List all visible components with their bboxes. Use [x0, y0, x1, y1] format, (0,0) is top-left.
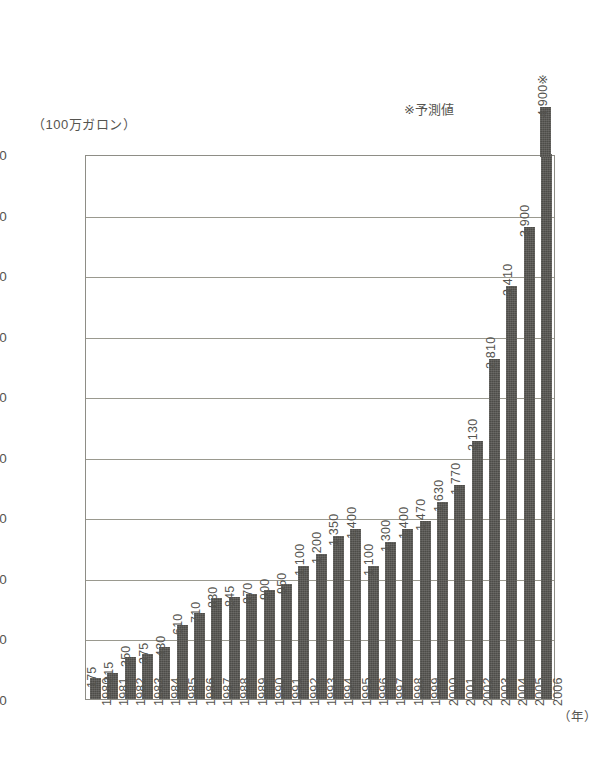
gridline: [86, 217, 554, 218]
x-axis-tick-label: 1988: [238, 677, 252, 706]
gridline: [86, 277, 554, 278]
y-axis-tick-label: 1,000: [0, 571, 7, 586]
x-axis-tick-label: 1986: [204, 677, 218, 706]
x-axis-tick-label: 1998: [412, 677, 426, 706]
x-axis-tick-label: 2000: [447, 677, 461, 706]
bar-value-label: 1,350: [327, 513, 341, 545]
bar-value-label: 3,410: [501, 264, 515, 296]
x-axis-tick-label: 1991: [290, 677, 304, 706]
y-axis-tick-label: 1,500: [0, 511, 7, 526]
bar-value-label: 1,470: [414, 499, 428, 531]
x-axis-tick-label: 2006: [551, 677, 565, 706]
bar: [420, 521, 431, 699]
bar-value-label: 610: [171, 614, 185, 635]
bar-value-label: 950: [275, 572, 289, 593]
bar: [437, 502, 448, 699]
bar: [489, 359, 500, 699]
bar: [333, 536, 344, 700]
y-axis-tick-label: 500: [0, 632, 7, 647]
bar-value-label: 900: [258, 579, 272, 600]
bar-value-label: 710: [189, 602, 203, 623]
x-axis-tick-label: 1981: [117, 677, 131, 706]
y-axis-tick-label: 2,500: [0, 390, 7, 405]
bar: [524, 227, 535, 699]
x-axis-tick-label: 1989: [256, 677, 270, 706]
x-axis-tick-label: 1993: [325, 677, 339, 706]
x-axis-tick-label: 1995: [360, 677, 374, 706]
bar-value-label: 1,100: [293, 543, 307, 575]
x-axis-tick-label: 2003: [499, 677, 513, 706]
bar-value-label: 430: [154, 635, 168, 656]
x-axis-tick-label: 1985: [186, 677, 200, 706]
plot-area: [85, 155, 555, 700]
bar-value-label: 1,630: [432, 479, 446, 511]
bar-value-label: 870: [241, 582, 255, 603]
x-axis-tick-label: 1999: [429, 677, 443, 706]
bar-value-label: 1,200: [310, 531, 324, 563]
bar: [472, 441, 483, 699]
bar: [454, 485, 465, 699]
x-axis-unit-label: （年）: [558, 706, 597, 725]
gridline: [86, 459, 554, 460]
bar: [385, 542, 396, 699]
gridline: [86, 519, 554, 520]
x-axis-tick-label: 1990: [273, 677, 287, 706]
x-axis-tick-label: 1996: [377, 677, 391, 706]
bar: [541, 154, 552, 699]
x-axis-tick-label: 1984: [169, 677, 183, 706]
bar-value-label: 2,810: [484, 336, 498, 368]
forecast-note: ※予測値: [404, 99, 454, 118]
bar-value-label: 3,900: [518, 204, 532, 236]
x-axis-tick-label: 2002: [481, 677, 495, 706]
bar-value-label: 1,300: [379, 519, 393, 551]
bar-value-label: 1,770: [449, 462, 463, 494]
bar-value-label: 830: [206, 587, 220, 608]
bar: [402, 529, 413, 699]
x-axis-tick-label: 2004: [516, 677, 530, 706]
bar: [506, 286, 517, 699]
bar-value-label: 350: [119, 645, 133, 666]
x-axis-tick-label: 1994: [342, 677, 356, 706]
bar-value-label: 1,100: [362, 543, 376, 575]
bar-value-label: 215: [102, 661, 116, 682]
bar-value-label: 175: [85, 666, 99, 687]
y-axis-tick-label: 4,500: [0, 148, 7, 163]
bar-value-label: 845: [223, 585, 237, 606]
x-axis-tick-label: 1997: [394, 677, 408, 706]
y-axis-unit-label: （100万ガロン）: [32, 114, 136, 133]
y-axis-tick-label: 2,000: [0, 450, 7, 465]
x-axis-tick-label: 1982: [134, 677, 148, 706]
bar-value-label: 1,400: [397, 507, 411, 539]
x-axis-tick-label: 1987: [221, 677, 235, 706]
bar: [350, 529, 361, 699]
x-axis-tick-label: 1992: [308, 677, 322, 706]
y-axis-tick-label: 3,500: [0, 269, 7, 284]
y-axis-tick-label: 3,000: [0, 329, 7, 344]
gridline: [86, 398, 554, 399]
x-axis-tick-label: 2001: [464, 677, 478, 706]
bar-value-label: 2,130: [466, 419, 480, 451]
y-axis-tick-label: 0: [0, 693, 7, 708]
bar-chart: （100万ガロン） ※予測値 05001,0001,5002,0002,5003…: [0, 0, 603, 782]
bar-value-label: 1,400: [345, 507, 359, 539]
bar-value-label: 4,900※: [535, 74, 550, 117]
bar-value-label: 375: [137, 642, 151, 663]
x-axis-tick-label: 1983: [152, 677, 166, 706]
y-axis-tick-label: 4,000: [0, 208, 7, 223]
